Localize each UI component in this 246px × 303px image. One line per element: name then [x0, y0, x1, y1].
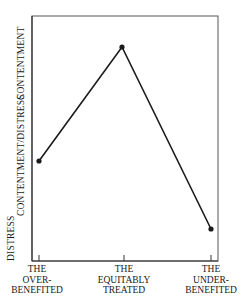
y-label-distress: DISTRESS	[6, 216, 16, 261]
x-label-equitably-treated: THE EQUITABLY TREATED	[89, 264, 159, 296]
series-line	[39, 47, 211, 229]
data-point-over-benefited	[36, 158, 41, 163]
data-point-equitably-treated	[119, 44, 124, 49]
x-label-over-benefited: THE OVER- BENEFITED	[2, 264, 72, 296]
y-label-contentment-distress: CONTENTMENT/DISTRESS	[16, 94, 26, 216]
equity-contentment-chart: CONTENTMENT CONTENTMENT/DISTRESS DISTRES…	[0, 0, 246, 303]
x-label-under-benefited: THE UNDER- BENEFITED	[176, 264, 246, 296]
plot-area	[0, 0, 246, 303]
data-point-under-benefited	[208, 226, 213, 231]
y-label-contentment: CONTENTMENT	[16, 27, 26, 100]
